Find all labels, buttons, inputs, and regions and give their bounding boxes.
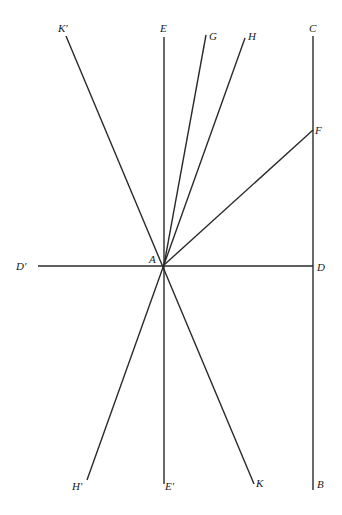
line-a-g [164,35,206,265]
geometry-diagram: K′ E G H C F D′ A D H′ E′ K B [0,0,342,515]
label-k: K [255,477,264,489]
label-d-prime: D′ [15,260,27,272]
label-c: C [309,22,317,34]
label-k-prime: K′ [57,22,68,34]
label-h-prime: H′ [71,480,83,492]
label-a: A [148,253,156,265]
label-e: E [159,22,167,34]
label-g: G [209,30,217,42]
line-k-prime-k [66,36,254,484]
label-b: B [317,478,324,490]
label-f: F [314,124,322,136]
line-h-prime-h [87,38,245,480]
label-d: D [316,261,325,273]
label-h: H [247,30,257,42]
label-e-prime: E′ [164,480,175,492]
line-a-f [164,130,313,265]
